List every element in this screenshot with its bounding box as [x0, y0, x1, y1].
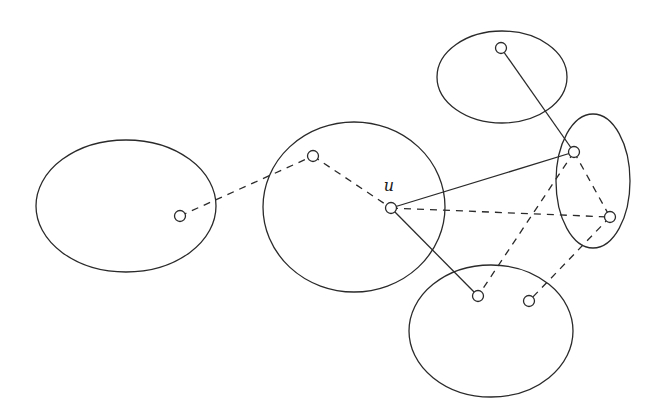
- node-u: [386, 203, 397, 214]
- edges: [180, 48, 610, 301]
- edge-n1-n2-dashed: [180, 156, 313, 216]
- cluster-c1: [36, 140, 216, 272]
- node-n4: [496, 43, 507, 54]
- cluster-c2: [263, 122, 445, 292]
- node-n1: [175, 211, 186, 222]
- clustered-graph-diagram: u: [0, 0, 660, 415]
- node-n8: [524, 296, 535, 307]
- node-n5: [569, 147, 580, 158]
- edge-n6-n8-dashed: [529, 217, 610, 301]
- edge-n2-u-dashed: [313, 156, 391, 208]
- edge-n5-n6-dashed: [574, 152, 610, 217]
- node-n2: [308, 151, 319, 162]
- edge-n4-n5-solid: [501, 48, 574, 152]
- edge-u-n5-solid: [391, 152, 574, 208]
- node-n7: [473, 291, 484, 302]
- edge-n5-n7-dashed: [478, 152, 574, 296]
- edge-u-n6-dashed: [391, 208, 610, 217]
- cluster-c4: [556, 114, 630, 248]
- node-n6: [605, 212, 616, 223]
- clusters: [36, 31, 630, 397]
- nodes: [175, 43, 616, 307]
- node-labels: u: [384, 176, 394, 195]
- node-label-u: u: [384, 176, 394, 195]
- cluster-c5: [409, 265, 573, 397]
